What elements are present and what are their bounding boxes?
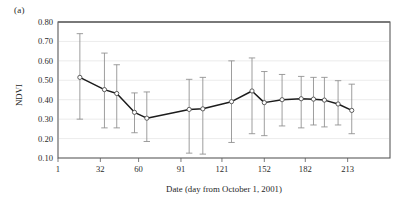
y-axis-title: NDVI xyxy=(14,84,24,106)
y-axis-tick-labels: 0.100.200.300.400.500.600.700.80 xyxy=(38,17,53,163)
x-tick-label: 152 xyxy=(258,164,271,174)
x-tick-label: 1 xyxy=(56,164,60,174)
x-tick-label: 91 xyxy=(177,164,186,174)
y-tick-label: 0.20 xyxy=(38,134,53,144)
y-tick-label: 0.60 xyxy=(38,56,53,66)
x-tick-label: 213 xyxy=(341,164,354,174)
x-tick-label: 121 xyxy=(216,164,229,174)
y-tick-label: 0.10 xyxy=(38,153,53,163)
data-point-marker xyxy=(187,107,191,111)
x-tick-label: 60 xyxy=(134,164,143,174)
data-point-marker xyxy=(311,97,315,101)
data-point-markers xyxy=(78,75,354,120)
data-point-marker xyxy=(102,88,106,92)
figure-panel: (a) 0.100.200.300.400.500.600.700.80 132… xyxy=(0,0,408,204)
y-tick-label: 0.30 xyxy=(38,114,53,124)
gridline-group xyxy=(59,41,389,138)
x-tick-label: 32 xyxy=(96,164,105,174)
data-point-marker xyxy=(322,98,326,102)
data-point-marker xyxy=(115,91,119,95)
x-axis-title: Date (day from October 1, 2001) xyxy=(166,184,282,194)
data-point-marker xyxy=(350,108,354,112)
data-point-marker xyxy=(280,98,284,102)
y-tick-label: 0.40 xyxy=(38,95,53,105)
x-tick-label: 182 xyxy=(299,164,312,174)
data-point-marker xyxy=(78,75,82,79)
y-tick-label: 0.50 xyxy=(38,75,53,85)
data-point-marker xyxy=(336,102,340,106)
data-point-marker xyxy=(201,107,205,111)
y-tick-label: 0.70 xyxy=(38,36,53,46)
x-axis-tick-marks xyxy=(58,158,348,162)
x-axis-tick-labels: 1326091121152182213 xyxy=(56,164,354,174)
data-point-marker xyxy=(262,101,266,105)
data-point-marker xyxy=(145,116,149,120)
y-tick-label: 0.80 xyxy=(38,17,53,27)
data-point-marker xyxy=(299,97,303,101)
data-point-marker xyxy=(229,100,233,104)
data-point-marker xyxy=(132,110,136,114)
ndvi-series-line xyxy=(80,77,352,118)
ndvi-line-chart: 0.100.200.300.400.500.600.700.80 1326091… xyxy=(0,0,408,204)
data-point-marker xyxy=(250,89,254,93)
